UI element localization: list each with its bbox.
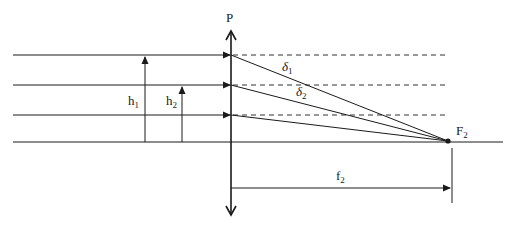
lens-label: P — [226, 10, 233, 25]
h2-label: h2 — [166, 93, 177, 110]
delta1-label: δ1 — [282, 59, 293, 76]
refracted-ray-2 — [231, 85, 448, 141]
lens-icon — [226, 31, 236, 215]
incident-rays — [13, 55, 230, 115]
focal-length-label: f2 — [336, 168, 345, 185]
h1-label: h1 — [128, 93, 139, 110]
refracted-rays — [231, 55, 448, 141]
lens-diagram: P h1 h2 δ1 δ2 F2 f2 — [0, 0, 513, 225]
focus-label: F2 — [456, 123, 468, 140]
dashed-reference-lines — [233, 55, 448, 115]
delta2-label: δ2 — [296, 84, 307, 101]
focal-point-marker — [445, 138, 450, 143]
